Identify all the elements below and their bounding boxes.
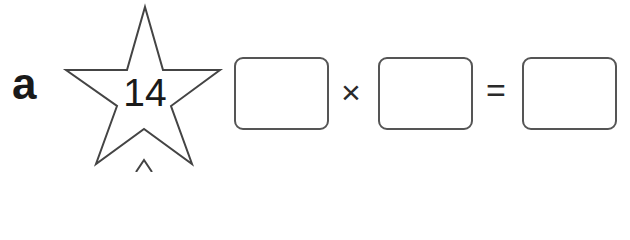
equals-sign: = xyxy=(486,73,506,107)
answer-box-product[interactable] xyxy=(522,57,617,130)
star-number: 14 xyxy=(113,73,177,112)
answer-box-factor2[interactable] xyxy=(378,57,473,130)
multiply-sign: × xyxy=(341,75,361,109)
answer-box-factor1[interactable] xyxy=(234,57,329,130)
next-star-tip xyxy=(136,160,152,172)
